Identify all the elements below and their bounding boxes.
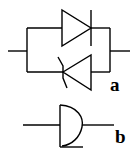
- symbol-b: [23, 105, 114, 147]
- label-a: a: [110, 75, 120, 94]
- gate-arc: [60, 105, 82, 146]
- thyristor-triangle: [63, 55, 91, 90]
- label-b: b: [115, 127, 126, 146]
- diode-triangle: [62, 10, 91, 46]
